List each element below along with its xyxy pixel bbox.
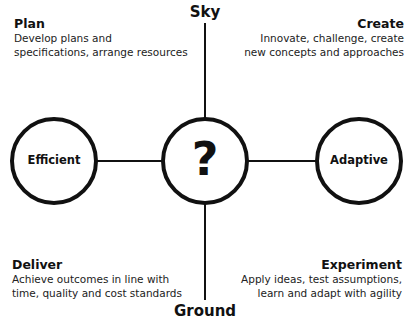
node-label-efficient: Efficient [12, 153, 96, 167]
quadrant-desc-line: Develop plans and [14, 31, 188, 45]
node-label-adaptive: Adaptive [317, 153, 401, 167]
quadrant-desc-line: specifications, arrange resources [14, 45, 188, 59]
quadrant-desc-line: Achieve outcomes in line with [12, 272, 182, 286]
quadrant-desc-line: Apply ideas, test assumptions, [241, 272, 402, 286]
quadrant-create: Create Innovate, challenge, create new c… [244, 16, 404, 59]
axis-label-ground: Ground [155, 302, 255, 320]
quadrant-desc-line: Innovate, challenge, create [244, 31, 404, 45]
quadrant-desc-line: new concepts and approaches [244, 45, 404, 59]
quadrant-title: Create [244, 16, 404, 31]
quadrant-desc-line: learn and adapt with agility [241, 286, 402, 300]
quadrant-desc-line: time, quality and cost standards [12, 286, 182, 300]
quadrant-title: Plan [14, 16, 188, 31]
quadrant-deliver: Deliver Achieve outcomes in line with ti… [12, 257, 182, 300]
quadrant-experiment: Experiment Apply ideas, test assumptions… [241, 257, 402, 300]
center-question-mark: ? [163, 131, 247, 187]
quadrant-plan: Plan Develop plans and specifications, a… [14, 16, 188, 59]
quadrant-title: Experiment [241, 257, 402, 272]
quadrant-title: Deliver [12, 257, 182, 272]
